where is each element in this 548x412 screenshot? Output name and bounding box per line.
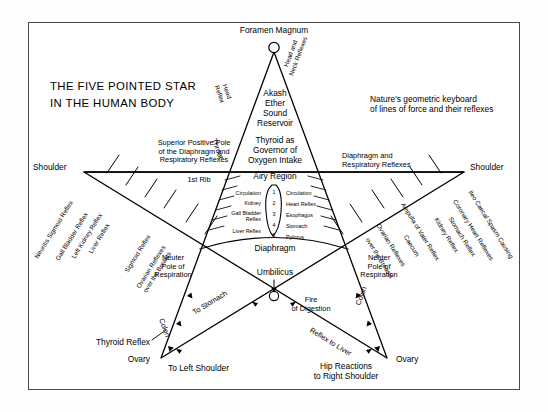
airy-number-1: 1 — [268, 189, 280, 195]
airy-left-circulation: Circulation — [200, 190, 261, 196]
airy-right-circulation: Circulation — [286, 190, 311, 196]
diaphragm-respiratory-block: Diaphragm andRespiratory Reflexes — [342, 152, 454, 169]
hip-reactions-label: Hip Reactionsto Right Shoulder — [298, 362, 394, 382]
first-rib-label: 1st Rib — [176, 176, 222, 185]
diaphragm-label: Diaphragm — [238, 244, 312, 254]
superior-pole-block: Superior Positive Poleof the Diaphragm a… — [140, 139, 248, 165]
airy-region-title: Airy Region — [238, 172, 312, 182]
ovary-right-label: Ovary — [396, 355, 418, 365]
subtitle: Nature's geometric keyboardof lines of f… — [370, 95, 546, 115]
shoulder-left-label: Shoulder — [33, 163, 67, 173]
airy-number-4: 4 — [268, 222, 280, 228]
thyroid-reflex-label: Thyroid Reflex — [62, 338, 150, 348]
leg-arrows — [168, 280, 380, 354]
airy-right-esophagus: Esophagus — [286, 212, 313, 218]
to-left-shoulder-label: To Left Shoulder — [168, 364, 229, 374]
neuter-pole-left: NeuterPole ofRespiration — [146, 254, 200, 280]
airy-number-3: 3 — [268, 211, 280, 217]
shoulder-right-label: Shoulder — [470, 163, 504, 173]
fire-of-digestion-label: Fireof Digestion — [277, 296, 345, 313]
airy-right-pylorus: Pylorus — [286, 234, 304, 240]
ovary-left-label: Ovary — [92, 355, 150, 365]
airy-left-kidney: Kidney — [200, 200, 261, 206]
airy-number-5: 5 — [268, 232, 280, 238]
diagram-canvas: THE FIVE POINTED STARIN THE HUMAN BODY N… — [0, 0, 548, 412]
akash-block: AkashEtherSoundReservoir — [236, 89, 314, 129]
airy-left-gall-bladder: Gall BladderReflex — [196, 210, 261, 223]
foramen-magnum-circle — [269, 42, 279, 52]
airy-left-liver: Liver Reflex — [198, 228, 261, 234]
neuter-pole-right: NeuterPole ofRespiration — [352, 254, 406, 280]
airy-right-stomach: Stomach — [286, 223, 307, 229]
airy-right-heart: Heart Reflex — [286, 201, 316, 207]
airy-number-2: 2 — [268, 200, 280, 206]
umbilicus-label: Umbilicus — [238, 268, 312, 278]
